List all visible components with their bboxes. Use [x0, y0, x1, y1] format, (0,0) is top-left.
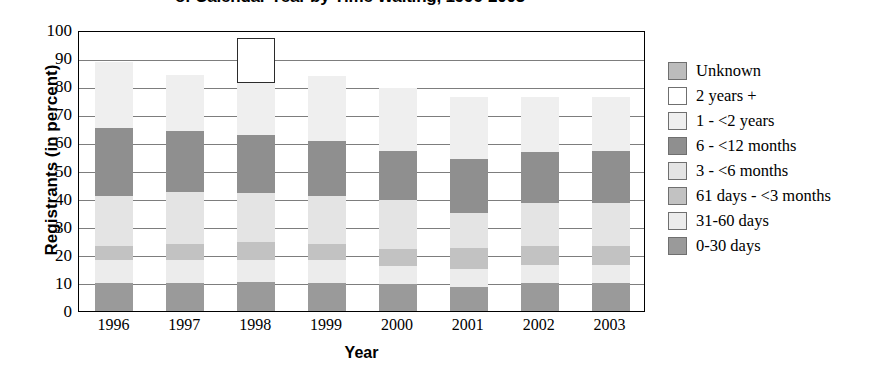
bar-segment[interactable]	[450, 287, 488, 311]
y-tick-label: 100	[32, 22, 72, 39]
legend-swatch-icon	[668, 237, 687, 255]
bar-1997[interactable]	[166, 30, 204, 311]
legend-swatch-icon	[668, 112, 687, 130]
bar-segment[interactable]	[308, 76, 346, 141]
bar-segment[interactable]	[592, 151, 630, 203]
legend-label: Unknown	[696, 61, 761, 80]
x-tick-label: 1996	[78, 316, 148, 334]
legend-item[interactable]: Unknown	[668, 58, 873, 83]
y-tick-label: 90	[32, 50, 72, 67]
bar-segment[interactable]	[308, 244, 346, 261]
bar-segment[interactable]	[95, 260, 133, 282]
bar-segment[interactable]	[237, 83, 275, 135]
bar-segment[interactable]	[379, 88, 417, 151]
legend-label: 61 days - <3 months	[696, 186, 831, 205]
x-tick-label: 1997	[149, 316, 219, 334]
legend-item[interactable]: 6 - <12 months	[668, 133, 873, 158]
bar-segment[interactable]	[592, 246, 630, 264]
bar-segment[interactable]	[95, 62, 133, 128]
bar-segment[interactable]	[95, 196, 133, 247]
bar-segment[interactable]	[308, 141, 346, 196]
bar-segment[interactable]	[379, 249, 417, 266]
bar-segment[interactable]	[166, 192, 204, 244]
bar-1996[interactable]	[95, 30, 133, 311]
x-axis-title: Year	[78, 344, 645, 362]
bar-2002[interactable]	[521, 30, 559, 311]
bar-1999[interactable]	[308, 30, 346, 311]
y-tick-label: 20	[32, 247, 72, 264]
legend-swatch-icon	[668, 87, 687, 105]
legend-swatch-icon	[668, 187, 687, 205]
bar-segment[interactable]	[450, 159, 488, 212]
bar-2000[interactable]	[379, 30, 417, 311]
bar-segment[interactable]	[521, 246, 559, 264]
legend-swatch-icon	[668, 212, 687, 230]
y-tick-label: 0	[32, 303, 72, 320]
legend-item[interactable]: 31-60 days	[668, 208, 873, 233]
bar-2001[interactable]	[450, 30, 488, 311]
legend-item[interactable]: 61 days - <3 months	[668, 183, 873, 208]
y-tick-label: 60	[32, 134, 72, 151]
x-tick-label: 2001	[433, 316, 503, 334]
bar-segment[interactable]	[237, 242, 275, 260]
bar-segment[interactable]	[166, 131, 204, 191]
y-tick-label: 10	[32, 275, 72, 292]
y-tick-label: 80	[32, 78, 72, 95]
legend-label: 31-60 days	[696, 211, 769, 230]
y-tick-label: 30	[32, 219, 72, 236]
bar-segment[interactable]	[95, 283, 133, 311]
bar-segment[interactable]	[95, 128, 133, 195]
legend-swatch-icon	[668, 137, 687, 155]
chart-title: of Calendar Year by Time Waiting, 1996-2…	[40, 0, 660, 7]
x-tick-label: 2002	[504, 316, 574, 334]
legend-item[interactable]: 0-30 days	[668, 233, 873, 258]
bar-segment[interactable]	[450, 269, 488, 287]
bar-segment[interactable]	[237, 38, 275, 83]
bar-segment[interactable]	[379, 151, 417, 200]
bar-1998[interactable]	[237, 30, 275, 311]
legend-item[interactable]: 2 years +	[668, 83, 873, 108]
bar-2003[interactable]	[592, 30, 630, 311]
bar-segment[interactable]	[521, 152, 559, 203]
bar-segment[interactable]	[450, 97, 488, 159]
bar-segment[interactable]	[592, 265, 630, 283]
bar-segment[interactable]	[308, 196, 346, 244]
bar-segment[interactable]	[521, 283, 559, 311]
bar-segment[interactable]	[237, 193, 275, 242]
bar-series-container	[79, 32, 644, 311]
bar-segment[interactable]	[237, 282, 275, 312]
bar-segment[interactable]	[450, 213, 488, 248]
y-tick-label: 40	[32, 191, 72, 208]
x-tick-label: 2000	[362, 316, 432, 334]
bar-segment[interactable]	[308, 260, 346, 282]
bar-segment[interactable]	[379, 266, 417, 284]
bar-segment[interactable]	[521, 203, 559, 247]
bar-segment[interactable]	[166, 75, 204, 131]
bar-segment[interactable]	[592, 97, 630, 150]
bar-segment[interactable]	[166, 260, 204, 282]
legend-label: 0-30 days	[696, 236, 761, 255]
y-tick-label: 50	[32, 163, 72, 180]
legend-item[interactable]: 1 - <2 years	[668, 108, 873, 133]
chart-figure: of Calendar Year by Time Waiting, 1996-2…	[0, 0, 877, 380]
bar-segment[interactable]	[166, 283, 204, 311]
bar-segment[interactable]	[521, 97, 559, 152]
x-axis-tick-labels: 19961997199819992000200120022003	[78, 316, 645, 340]
x-tick-label: 1999	[291, 316, 361, 334]
bar-segment[interactable]	[521, 265, 559, 283]
legend-label: 3 - <6 months	[696, 161, 788, 180]
legend-swatch-icon	[668, 162, 687, 180]
bar-segment[interactable]	[95, 246, 133, 260]
bar-segment[interactable]	[166, 244, 204, 261]
bar-segment[interactable]	[237, 135, 275, 193]
bar-segment[interactable]	[379, 284, 417, 311]
bar-segment[interactable]	[592, 203, 630, 247]
plot-area	[78, 31, 645, 312]
bar-segment[interactable]	[379, 200, 417, 249]
bar-segment[interactable]	[592, 283, 630, 311]
bar-segment[interactable]	[308, 283, 346, 311]
x-tick-label: 2003	[575, 316, 645, 334]
legend-item[interactable]: 3 - <6 months	[668, 158, 873, 183]
bar-segment[interactable]	[237, 260, 275, 281]
bar-segment[interactable]	[450, 248, 488, 269]
